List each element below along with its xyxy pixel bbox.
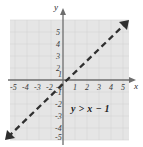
x-tick-label: -2 [46,84,53,92]
y-tick-label: 5 [56,29,60,37]
inequality-graph-figure: -5 -4 -3 -2 -1 1 2 3 4 5 5 4 3 2 1 -1 -2… [0,0,143,147]
x-tick-label: 3 [97,84,101,92]
y-tick-label: -1 [55,89,62,97]
y-tick-label: -4 [55,125,62,133]
y-tick-label: 3 [56,53,60,61]
x-tick-label: -5 [10,84,17,92]
y-tick-label: 1 [58,71,62,79]
y-tick-label: -5 [55,134,62,142]
y-tick-label: -3 [55,113,62,121]
x-tick-label: 5 [121,84,125,92]
y-tick-label: -2 [55,101,62,109]
x-tick-label: 1 [73,84,77,92]
coordinate-plane [0,0,143,147]
y-axis-label: y [54,3,58,12]
x-tick-label: 4 [109,84,113,92]
x-tick-label: 2 [85,84,89,92]
y-tick-label: 4 [56,41,60,49]
x-axis-label: x [134,82,138,91]
inequality-annotation: y > x − 1 [71,103,110,114]
x-tick-label: -3 [34,84,41,92]
x-tick-label: -4 [22,84,29,92]
